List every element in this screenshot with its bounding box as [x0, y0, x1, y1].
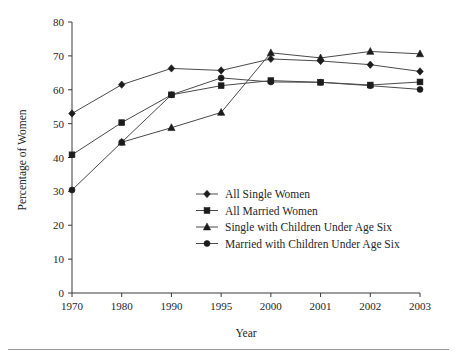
chart-legend: All Single WomenAll Married WomenSingle … — [196, 188, 400, 251]
x-tick-label: 1990 — [160, 300, 183, 312]
chart-figure: 01020304050607080 1970198019901995200020… — [0, 0, 456, 364]
data-point-circle — [168, 92, 174, 98]
data-point-square — [218, 83, 224, 89]
legend-item[interactable]: All Married Women — [196, 205, 318, 217]
data-point-square — [69, 152, 75, 158]
legend-label: Married with Children Under Age Six — [225, 238, 400, 251]
legend-label: All Single Women — [225, 188, 310, 201]
data-point-triangle — [267, 49, 274, 56]
legend-item[interactable]: Married with Children Under Age Six — [196, 238, 400, 251]
y-tick-label: 70 — [53, 50, 65, 62]
legend-item[interactable]: Single with Children Under Age Six — [196, 221, 392, 234]
data-point-square — [417, 79, 423, 85]
x-tick-label: 1970 — [61, 300, 84, 312]
data-point-diamond — [118, 81, 125, 88]
x-tick-label: 1980 — [111, 300, 134, 312]
y-tick-label: 50 — [53, 118, 65, 130]
data-point-circle — [119, 139, 125, 145]
x-tick-label: 1995 — [210, 300, 233, 312]
x-tick-label: 2001 — [310, 300, 332, 312]
data-point-circle — [218, 75, 224, 81]
legend-marker-square — [204, 208, 210, 214]
y-axis-title: Percentage of Women — [16, 109, 29, 210]
legend-marker-circle — [204, 241, 210, 247]
y-tick-label: 0 — [59, 287, 65, 299]
y-tick-label: 40 — [53, 152, 65, 164]
data-point-square — [119, 120, 125, 126]
x-tick-label: 2003 — [409, 300, 432, 312]
series-line — [72, 78, 420, 190]
legend-marker-diamond — [204, 190, 211, 197]
x-tick-label: 2002 — [359, 300, 381, 312]
data-point-diamond — [69, 110, 76, 117]
y-tick-label: 60 — [53, 84, 65, 96]
data-point-circle — [268, 79, 274, 85]
y-tick-label: 30 — [53, 185, 65, 197]
legend-label: All Married Women — [225, 205, 318, 217]
data-point-diamond — [367, 61, 374, 68]
data-point-triangle — [367, 48, 374, 55]
data-point-diamond — [218, 67, 225, 74]
data-point-diamond — [417, 68, 424, 75]
y-tick-label: 80 — [53, 16, 65, 28]
legend-label: Single with Children Under Age Six — [225, 221, 392, 234]
data-point-circle — [69, 187, 75, 193]
y-tick-label: 10 — [53, 253, 65, 265]
y-tick-label: 20 — [53, 219, 65, 231]
data-point-circle — [367, 83, 373, 89]
data-point-circle — [417, 86, 423, 92]
legend-item[interactable]: All Single Women — [196, 188, 310, 201]
series-2 — [69, 78, 423, 158]
series-4 — [69, 75, 423, 193]
data-point-circle — [318, 79, 324, 85]
x-tick-label: 2000 — [260, 300, 283, 312]
line-chart: 01020304050607080 1970198019901995200020… — [0, 0, 456, 364]
series-layer — [69, 48, 424, 193]
x-axis-title: Year — [235, 327, 256, 339]
x-axis: 19701980199019952000200120022003 — [61, 293, 432, 312]
data-point-diamond — [168, 65, 175, 72]
